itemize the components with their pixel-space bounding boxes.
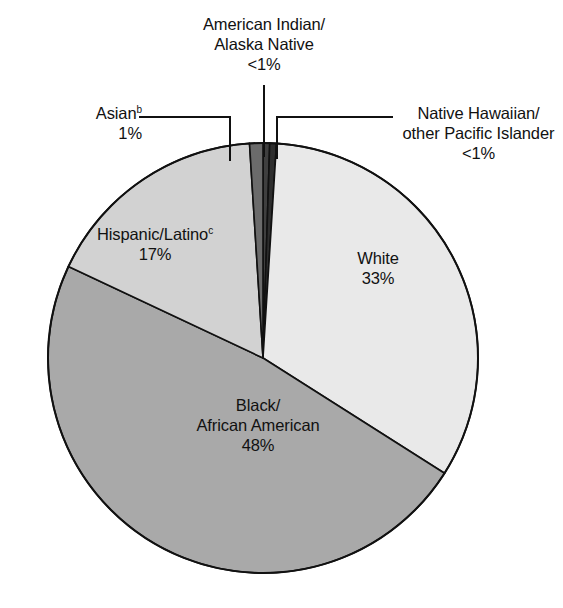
label-asian-name: Asianb (10, 103, 142, 123)
label-black-line1: Black/ (170, 395, 346, 415)
label-native-hawaiian-line1: Native Hawaiian/ (396, 103, 561, 123)
label-american-indian-line1: American Indian/ (144, 14, 384, 34)
pie-chart-canvas (0, 0, 563, 608)
label-native-hawaiian-other-pacific-islander: Native Hawaiian/ other Pacific Islander … (396, 103, 561, 163)
label-black-line2: African American (170, 415, 346, 435)
label-black-value: 48% (170, 435, 346, 455)
label-american-indian-alaska-native: American Indian/ Alaska Native <1% (144, 14, 384, 74)
label-native-hawaiian-line2: other Pacific Islander (396, 123, 561, 143)
label-asian-text: Asian (96, 104, 137, 122)
label-native-hawaiian-value: <1% (396, 143, 561, 163)
label-american-indian-value: <1% (144, 54, 384, 74)
label-hispanic-name: Hispanic/Latinoc (80, 224, 230, 244)
label-black-african-american: Black/ African American 48% (170, 395, 346, 455)
label-hispanic-latino: Hispanic/Latinoc 17% (80, 224, 230, 264)
label-american-indian-line2: Alaska Native (144, 34, 384, 54)
label-asian: Asianb 1% (10, 103, 142, 143)
label-hispanic-footnote: c (208, 225, 213, 236)
label-asian-value: 1% (10, 123, 142, 143)
label-white: White 33% (330, 248, 426, 288)
label-white-value: 33% (330, 268, 426, 288)
label-hispanic-text: Hispanic/Latino (97, 225, 208, 243)
pie-chart: American Indian/ Alaska Native <1% Asian… (0, 0, 563, 608)
label-asian-footnote: b (137, 104, 142, 115)
label-hispanic-value: 17% (80, 244, 230, 264)
label-white-name: White (330, 248, 426, 268)
pie-slices (48, 143, 478, 573)
